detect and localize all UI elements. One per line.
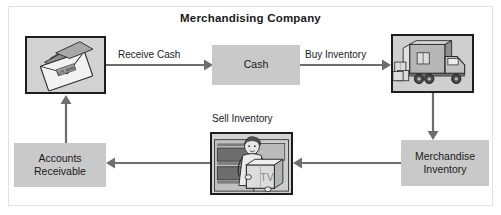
salesperson-carrying-box-icon: TV (212, 134, 291, 193)
node-sell-inventory-image: TV (210, 132, 293, 195)
node-buy-inventory-image (391, 34, 474, 93)
arrow-truck-to-inventory (426, 93, 440, 141)
node-cash: Cash (212, 45, 300, 85)
edge-label-receive-cash: Receive Cash (118, 49, 180, 60)
tv-box-text: TV (260, 172, 273, 183)
node-merchandise-inventory-label: Merchandise Inventory (415, 150, 475, 176)
node-merchandise-inventory-label-line2: Inventory (423, 163, 466, 175)
edge-label-sell-inventory: Sell Inventory (212, 113, 273, 124)
node-merchandise-inventory: Merchandise Inventory (401, 140, 489, 186)
node-cash-label: Cash (244, 58, 269, 71)
mail-envelope-with-cash-icon: U.S. MAIL (27, 38, 104, 92)
node-accounts-receivable-label: Accounts Receivable (34, 152, 86, 178)
delivery-truck-icon (393, 36, 472, 91)
arrow-ar-to-receive-cash (59, 94, 73, 144)
arrow-buy-inventory (300, 58, 392, 72)
node-accounts-receivable: Accounts Receivable (14, 143, 106, 187)
node-accounts-receivable-label-line1: Accounts (38, 152, 81, 164)
arrow-sell-inventory (105, 156, 211, 170)
arrow-inventory-to-sell (292, 156, 402, 170)
node-receive-cash-image: U.S. MAIL (25, 36, 106, 94)
arrow-receive-cash (106, 58, 214, 72)
edge-label-buy-inventory: Buy Inventory (305, 49, 366, 60)
merchandising-company-diagram: Merchandising Company (0, 0, 501, 215)
diagram-title: Merchandising Company (0, 12, 501, 24)
node-accounts-receivable-label-line2: Receivable (34, 165, 86, 177)
node-merchandise-inventory-label-line1: Merchandise (415, 150, 475, 162)
